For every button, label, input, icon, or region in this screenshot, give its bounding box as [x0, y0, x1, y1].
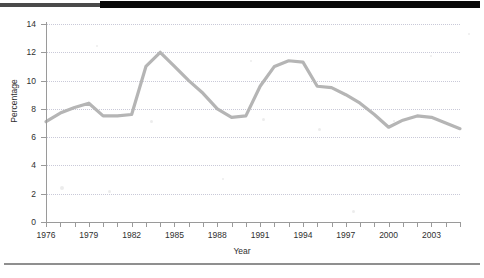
x-tick-1993	[289, 223, 290, 227]
x-tick-label-1988: 1988	[197, 230, 237, 240]
x-tick-1987	[203, 223, 204, 227]
x-tick-2003	[431, 223, 432, 227]
y-tick-4	[41, 165, 46, 166]
x-tick-1990	[246, 223, 247, 227]
speckle-9	[96, 45, 98, 47]
x-tick-2004	[446, 223, 447, 227]
x-tick-1997	[346, 223, 347, 227]
y-tick-2	[41, 194, 46, 195]
x-tick-1981	[117, 223, 118, 227]
y-tick-label-0: 0	[14, 217, 36, 227]
x-tick-1980	[103, 223, 104, 227]
x-tick-1992	[274, 223, 275, 227]
x-tick-label-2003: 2003	[411, 230, 451, 240]
footer-rule	[4, 263, 480, 265]
speckle-0	[150, 120, 153, 123]
y-tick-12	[41, 52, 46, 53]
y-tick-label-4: 4	[14, 160, 36, 170]
x-tick-1985	[174, 223, 175, 227]
x-tick-1977	[60, 223, 61, 227]
x-tick-2001	[403, 223, 404, 227]
x-axis-line	[46, 222, 461, 223]
x-tick-label-1982: 1982	[112, 230, 152, 240]
x-tick-2002	[417, 223, 418, 227]
speckle-3	[60, 186, 64, 190]
line-chart: 02468101214 1976197919821985198819911994…	[0, 0, 484, 278]
y-tick-8	[41, 109, 46, 110]
y-tick-label-2: 2	[14, 189, 36, 199]
y-tick-6	[41, 137, 46, 138]
x-tick-label-2000: 2000	[369, 230, 409, 240]
x-tick-label-1997: 1997	[326, 230, 366, 240]
x-tick-label-1976: 1976	[26, 230, 66, 240]
x-axis-title: Year	[0, 246, 484, 256]
x-tick-1982	[132, 223, 133, 227]
x-tick-label-1979: 1979	[69, 230, 109, 240]
x-tick-1986	[189, 223, 190, 227]
x-tick-1991	[260, 223, 261, 227]
speckle-4	[430, 55, 432, 57]
speckle-10	[352, 210, 355, 213]
y-tick-label-14: 14	[14, 19, 36, 29]
speckle-11	[468, 33, 470, 35]
x-tick-1978	[75, 223, 76, 227]
x-tick-1988	[217, 223, 218, 227]
x-tick-label-1994: 1994	[283, 230, 323, 240]
y-axis-title: Percentage	[9, 41, 19, 161]
y-tick-10	[41, 81, 46, 82]
x-tick-label-1985: 1985	[154, 230, 194, 240]
x-tick-1996	[332, 223, 333, 227]
x-tick-2000	[389, 223, 390, 227]
y-axis-line	[46, 22, 47, 224]
x-tick-1989	[232, 223, 233, 227]
x-tick-1999	[374, 223, 375, 227]
x-tick-1984	[160, 223, 161, 227]
x-tick-label-1991: 1991	[240, 230, 280, 240]
x-tick-1995	[317, 223, 318, 227]
speckle-2	[318, 128, 321, 131]
x-tick-2005	[460, 223, 461, 227]
y-tick-14	[41, 24, 46, 25]
speckle-1	[262, 118, 265, 121]
speckle-6	[108, 190, 111, 193]
x-tick-1983	[146, 223, 147, 227]
chart-page: 02468101214 1976197919821985198819911994…	[0, 0, 484, 278]
x-tick-1979	[89, 223, 90, 227]
x-tick-1998	[360, 223, 361, 227]
x-tick-1976	[46, 223, 47, 227]
speckle-7	[222, 178, 224, 180]
x-tick-1994	[303, 223, 304, 227]
speckle-8	[250, 60, 252, 62]
speckle-5	[393, 120, 395, 122]
